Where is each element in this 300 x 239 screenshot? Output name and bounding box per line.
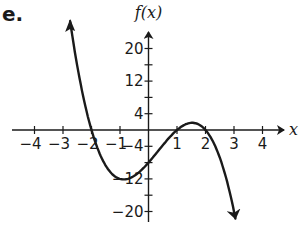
function-graph: −4−3−2−11234−20−12−441220 x f(x) (0, 0, 300, 239)
function-curve (70, 21, 235, 219)
x-tick-label: 1 (172, 135, 182, 153)
x-tick-label: 2 (201, 135, 211, 153)
x-tick-label: −3 (48, 135, 70, 153)
x-tick-label: 3 (229, 135, 239, 153)
x-axis-label: x (289, 120, 298, 139)
y-tick-label: −20 (112, 203, 144, 221)
curve-start-arrow-icon (65, 19, 75, 32)
y-tick-label: 4 (134, 105, 144, 123)
x-tick-label: 4 (258, 135, 268, 153)
axes (12, 32, 284, 222)
y-tick-label: −4 (121, 137, 143, 155)
y-tick-label: 12 (124, 72, 143, 90)
y-axis-label: f(x) (134, 3, 162, 22)
x-tick-label: −4 (19, 135, 41, 153)
y-tick-label: 20 (124, 40, 143, 58)
